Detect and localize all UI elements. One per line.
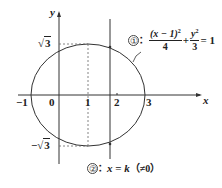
x-tick-label-neg1: −1	[16, 97, 28, 108]
intersection-point-bottom	[109, 143, 112, 146]
intersection-point-top	[109, 46, 112, 49]
x-tick-label-2: 2	[114, 97, 120, 108]
marker-1: ①	[128, 35, 139, 46]
y-tick-label-sqrt3: √3	[38, 38, 51, 49]
y-axis-label: y	[50, 7, 55, 18]
equation-line-2: ② ： x = k （≠0）	[87, 163, 160, 174]
leader-line-curve-1	[133, 52, 141, 62]
fraction-x: (x − 1)2 4	[149, 28, 182, 52]
x-axis-arrow-icon	[196, 93, 202, 97]
marker-2: ②	[87, 163, 98, 174]
equation-curve-1: ① ： (x − 1)2 4 + y2 3 = 1	[128, 28, 215, 52]
x-tick-label-0: 0	[49, 97, 55, 108]
y-axis-arrow-icon	[57, 11, 61, 17]
separator: ：	[139, 36, 148, 45]
x-tick-label-3: 3	[146, 97, 152, 108]
y-tick-label-neg-sqrt3: −√3	[31, 140, 50, 151]
x-tick-label-1: 1	[85, 97, 91, 108]
fraction-y: y2 3	[190, 28, 199, 52]
x-axis-label: x	[203, 95, 209, 106]
